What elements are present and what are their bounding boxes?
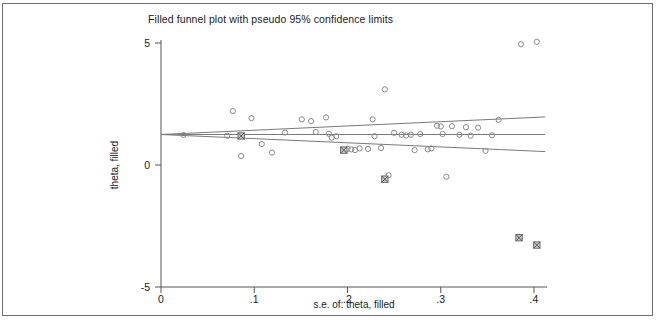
filled-study-marker bbox=[341, 147, 347, 153]
x-axis-title: s.e. of: theta, filled bbox=[313, 299, 394, 310]
y-axis-ticks: 50-5 bbox=[141, 37, 161, 293]
y-tick-label--5: -5 bbox=[141, 281, 150, 293]
observed-study-marker bbox=[489, 133, 494, 138]
y-axis-title: theta, filled bbox=[109, 141, 120, 189]
x-tick-label-0: 0 bbox=[158, 293, 164, 305]
observed-study-marker bbox=[444, 174, 449, 179]
observed-study-marker bbox=[463, 125, 468, 130]
observed-study-marker bbox=[370, 117, 375, 122]
filled-study-marker bbox=[516, 235, 522, 241]
observed-study-marker bbox=[449, 124, 454, 129]
observed-study-marker bbox=[323, 115, 328, 120]
observed-study-marker bbox=[496, 117, 501, 122]
observed-study-marker bbox=[357, 146, 362, 151]
observed-study-marker bbox=[299, 117, 304, 122]
observed-study-marker bbox=[518, 42, 523, 47]
screenshot-page: Filled funnel plot with pseudo 95% confi… bbox=[0, 0, 657, 324]
observed-study-marker bbox=[259, 141, 264, 146]
observed-study-marker bbox=[230, 108, 235, 113]
observed-study-marker bbox=[239, 153, 244, 158]
observed-study-marker bbox=[309, 118, 314, 123]
observed-study-marker bbox=[382, 87, 387, 92]
filled-study-marker bbox=[534, 242, 540, 248]
observed-study-marker bbox=[313, 129, 318, 134]
filled-study-marker bbox=[238, 133, 244, 139]
observed-study-marker bbox=[475, 125, 480, 130]
observed-study-marker bbox=[249, 116, 254, 121]
observed-study-marker bbox=[378, 145, 383, 150]
observed-study-marker bbox=[269, 150, 274, 155]
x-tick-label-.1: .1 bbox=[250, 293, 259, 305]
y-tick-label-0: 0 bbox=[144, 159, 150, 171]
x-tick-label-.3: .3 bbox=[436, 293, 445, 305]
observed-study-marker bbox=[438, 124, 443, 129]
observed-study-marker bbox=[412, 148, 417, 153]
observed-study-marker bbox=[468, 133, 473, 138]
filled-study-marker bbox=[382, 176, 388, 182]
observed-study-marker bbox=[534, 39, 539, 44]
funnel-plot-canvas: 50-5 0.1.2.3.4 theta, filled s.e. of: th… bbox=[0, 0, 657, 324]
y-tick-label-5: 5 bbox=[144, 37, 150, 49]
axes bbox=[161, 40, 547, 287]
x-tick-label-.4: .4 bbox=[530, 293, 539, 305]
ci-line-upper bbox=[161, 117, 545, 135]
observed-study-marker bbox=[365, 146, 370, 151]
